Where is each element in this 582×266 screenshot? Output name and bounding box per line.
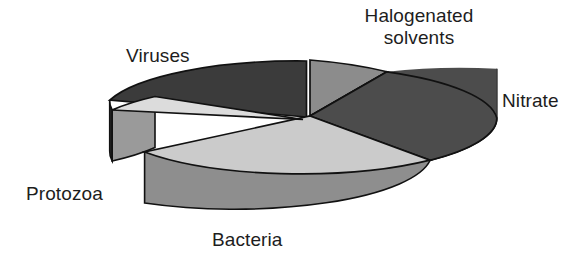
pie-label-bacteria: Bacteria	[212, 229, 283, 251]
pie-label-nitrate: Nitrate	[502, 90, 559, 112]
pie-label-halogenated-solvents: Halogenated solvents	[334, 5, 504, 49]
pie-label-protozoa: Protozoa	[26, 183, 103, 205]
pie-top-face	[110, 60, 497, 174]
pie-label-viruses: Viruses	[126, 45, 190, 67]
pie-chart-figure: Halogenated solvents Nitrate Viruses Pro…	[0, 0, 582, 266]
